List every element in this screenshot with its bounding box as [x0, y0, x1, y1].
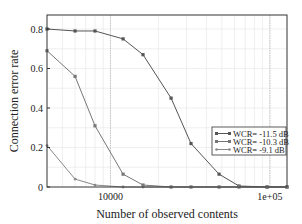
y-tick-label: 0.2 — [31, 142, 44, 153]
y-tick-label: 0.6 — [31, 63, 44, 74]
legend-label: WCR= -9.1 dB — [233, 145, 285, 155]
y-tick-label: 0.4 — [31, 103, 44, 114]
x-axis-ticks: 100001e+05 — [98, 191, 282, 202]
x-axis-label: Number of observed contents — [96, 207, 238, 221]
x-tick-label: 10000 — [98, 191, 123, 202]
grid-lines — [47, 15, 287, 187]
decade-reference-lines — [110, 15, 269, 187]
y-axis-label: Connection error rate — [7, 50, 21, 153]
y-tick-label: 0 — [38, 182, 43, 193]
legend: WCR= -11.5 dBWCR= -10.3 dBWCR= -9.1 dB — [212, 127, 289, 155]
plot-frame — [47, 15, 287, 187]
line-chart: 00.20.40.60.8 100001e+05 Number of obser… — [0, 0, 302, 224]
series-2 — [45, 49, 288, 188]
y-tick-label: 0.8 — [31, 24, 44, 35]
x-tick-label: 1e+05 — [257, 191, 282, 202]
